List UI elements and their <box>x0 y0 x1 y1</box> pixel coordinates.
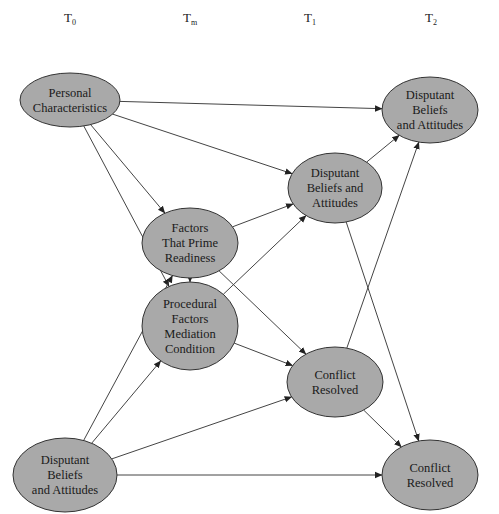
edge-procedural-factors-to-conflict-resolved-t1 <box>234 343 292 366</box>
node-label-line: Factors <box>172 221 209 235</box>
node-label-line: Resolved <box>312 383 359 397</box>
edges <box>84 101 419 475</box>
edge-disputant-beliefs-t1-to-disputant-beliefs-t2 <box>367 135 400 162</box>
edge-conflict-resolved-t1-to-conflict-resolved-t2 <box>364 410 402 447</box>
node-label-line: and Attitudes <box>32 483 98 497</box>
time-label-t0: T0 <box>64 10 76 27</box>
edge-disputant-beliefs-t0-to-conflict-resolved-t1 <box>112 397 292 459</box>
node-label-line: Beliefs <box>412 103 448 117</box>
node-label-line: Readiness <box>165 251 216 265</box>
time-label-tm: Tm <box>183 10 198 27</box>
node-label-line: Disputant <box>311 166 360 180</box>
node-label-line: Disputant <box>406 88 455 102</box>
node-procedural-factors: ProceduralFactorsMediationCondition <box>142 282 238 370</box>
node-factors-prime-readiness: FactorsThat PrimeReadiness <box>142 208 238 278</box>
edge-factors-prime-readiness-to-disputant-beliefs-t1 <box>233 204 294 227</box>
node-label-line: Procedural <box>163 297 218 311</box>
node-personal-characteristics: PersonalCharacteristics <box>20 73 120 127</box>
edge-disputant-beliefs-t0-to-procedural-factors <box>92 361 161 443</box>
node-label-line: Attitudes <box>312 196 358 210</box>
node-label-line: Conflict <box>410 461 451 475</box>
node-label-line: Beliefs <box>47 468 83 482</box>
node-label-line: Disputant <box>41 453 90 467</box>
edge-personal-characteristics-to-disputant-beliefs-t1 <box>113 114 293 174</box>
node-disputant-beliefs-t1: DisputantBeliefs andAttitudes <box>288 153 382 223</box>
node-conflict-resolved-t2: ConflictResolved <box>382 440 478 510</box>
node-label-line: and Attitudes <box>397 118 463 132</box>
node-label-line: Resolved <box>407 476 454 490</box>
node-label-line: Personal <box>48 86 92 100</box>
time-label-t1: T1 <box>304 10 316 27</box>
nodes: PersonalCharacteristicsDisputantBeliefsa… <box>13 73 478 512</box>
edge-personal-characteristics-to-disputant-beliefs-t2 <box>120 101 382 108</box>
node-disputant-beliefs-t0: DisputantBeliefsand Attitudes <box>13 438 117 512</box>
node-label-line: Mediation <box>164 327 216 341</box>
node-label-line: Factors <box>172 312 209 326</box>
path-diagram: T0 Tm T1 T2 PersonalCharacteristicsDispu… <box>0 0 499 514</box>
node-conflict-resolved-t1: ConflictResolved <box>287 347 383 417</box>
node-label-line: Beliefs and <box>307 181 364 195</box>
time-axis: T0 Tm T1 T2 <box>64 10 437 27</box>
node-label-line: Condition <box>165 342 216 356</box>
node-label-line: Characteristics <box>33 101 107 115</box>
edge-personal-characteristics-to-factors-prime-readiness <box>91 125 165 214</box>
time-label-t2: T2 <box>425 10 437 27</box>
node-label-line: Conflict <box>315 368 356 382</box>
node-disputant-beliefs-t2: DisputantBeliefsand Attitudes <box>382 77 478 143</box>
node-label-line: That Prime <box>162 236 218 250</box>
